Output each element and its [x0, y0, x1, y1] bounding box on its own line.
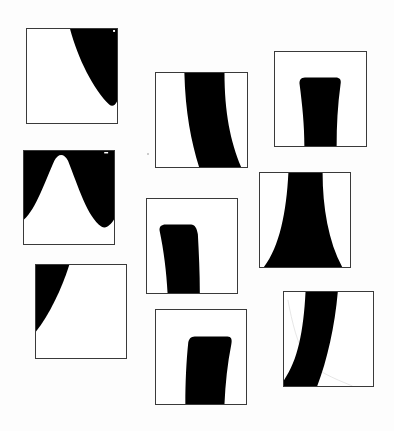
tile-4 [23, 150, 115, 245]
black-pillar-shape [275, 52, 366, 146]
tile-1 [26, 28, 118, 124]
dot-artifact [147, 153, 149, 155]
black-wedge-shape [27, 29, 117, 123]
tile-9 [283, 291, 374, 387]
black-wedge-shape [36, 265, 126, 358]
tile-3 [274, 51, 367, 147]
black-pillar-shape [147, 199, 237, 293]
tile-7 [35, 264, 127, 359]
tile-2 [155, 72, 248, 168]
black-band-shape [156, 73, 247, 167]
tile-8 [155, 309, 247, 405]
black-flared-shape [260, 173, 350, 267]
tile-6 [259, 172, 351, 268]
black-bell-curve-shape [24, 151, 114, 244]
black-band-shape [284, 292, 373, 386]
tile-5 [146, 198, 238, 294]
black-pillar-shape [156, 310, 246, 404]
